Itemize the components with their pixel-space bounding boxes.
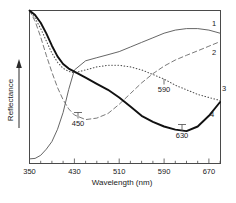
x-axis-ticks: [30, 159, 221, 164]
curve-label-4: 4: [210, 110, 214, 119]
annotation-450: 450: [72, 113, 85, 129]
x-tick-label-2: 510: [113, 167, 126, 176]
plot-frame: [30, 11, 221, 164]
x-tick-labels: 350 430 510 590 670: [23, 167, 215, 176]
annotation-630-label: 630: [176, 131, 189, 140]
curve-label-2: 2: [212, 48, 216, 57]
reflectance-spectra-figure: 350 430 510 590 670 Wavelength (nm) Refl…: [0, 0, 236, 203]
x-tick-label-3: 590: [158, 167, 171, 176]
x-tick-label-0: 350: [23, 167, 36, 176]
x-tick-label-4: 670: [203, 167, 216, 176]
curve-1-line: [30, 29, 221, 159]
annotation-450-label: 450: [72, 119, 85, 128]
annotation-630: 630: [176, 125, 189, 141]
curve-label-3: 3: [222, 84, 226, 93]
annotation-590-label: 590: [158, 85, 171, 94]
curve-label-1: 1: [212, 19, 216, 28]
curves-group: [30, 11, 221, 159]
x-tick-label-1: 430: [68, 167, 81, 176]
x-axis-title: Wavelength (nm): [92, 178, 153, 187]
chart-canvas: 350 430 510 590 670 Wavelength (nm) Refl…: [0, 0, 236, 203]
y-axis-title: Reflectance: [6, 78, 15, 121]
y-axis-arrow-icon: [16, 59, 22, 128]
